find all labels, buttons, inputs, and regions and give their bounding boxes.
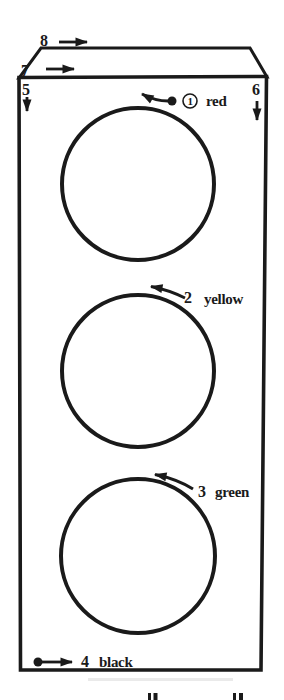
arrow-7-label: 7 [21, 62, 29, 79]
light-3-number: 3 [198, 483, 206, 500]
light-2-number: 2 [184, 289, 192, 306]
cutoff-text-fragments [148, 693, 243, 700]
traffic-light-figure: 8 7 5 6 1 red 2 yellow [0, 0, 284, 700]
cutoff-glyph-mark [154, 693, 158, 700]
cutoff-glyph-mark [239, 693, 243, 700]
light-3-color-label: green [215, 484, 250, 500]
light-2-color-label: yellow [204, 291, 243, 307]
scan-smudge [88, 678, 233, 681]
arrow-8: 8 [40, 32, 87, 49]
arrow-6-label: 6 [252, 81, 260, 98]
cutoff-glyph-mark [148, 693, 151, 700]
light-4-number: 4 [81, 653, 89, 670]
box-front-face [19, 77, 267, 671]
arrow-8-label: 8 [40, 32, 48, 49]
diagram-canvas: 8 7 5 6 1 red 2 yellow [0, 0, 284, 700]
arrow-5-label: 5 [22, 81, 30, 98]
light-1-number: 1 [187, 95, 192, 107]
box-top-face [19, 48, 267, 78]
cutoff-glyph-mark [233, 693, 236, 700]
light-4-color-label: black [99, 654, 133, 670]
light-1-color-label: red [206, 93, 227, 109]
